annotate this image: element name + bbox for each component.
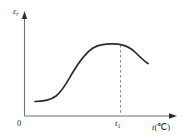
x-axis-tick-label-t1: t1 <box>115 119 120 129</box>
x-axis-arrowhead <box>169 113 177 118</box>
tick-label-subscript: 1 <box>117 123 120 129</box>
plot-canvas <box>0 0 190 139</box>
y-axis-label-subscript: r <box>16 11 18 17</box>
permittivity-curve <box>35 44 148 102</box>
x-axis-label-units: (℃) <box>154 122 170 132</box>
y-axis-label: εr <box>13 7 19 17</box>
permittivity-temperature-figure: εr 0 t1 t(℃) <box>0 0 190 139</box>
x-axis-label: t(℃) <box>152 123 170 132</box>
origin-label: 0 <box>17 119 21 128</box>
y-axis-arrowhead <box>22 11 27 19</box>
